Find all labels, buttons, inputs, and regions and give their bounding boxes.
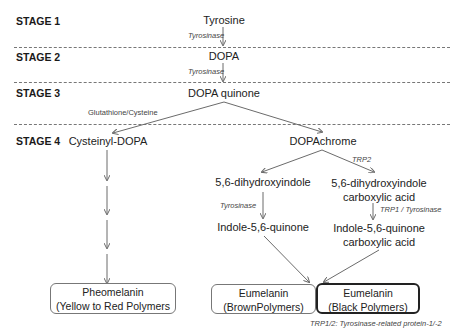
node-dopa-quinone: DOPA quinone: [188, 87, 260, 99]
product-subtitle: (BrownPolymers): [212, 300, 315, 314]
product-subtitle: (Black Polymers): [318, 300, 418, 314]
enzyme-tyrosinase-label: Tyrosinase: [188, 31, 224, 40]
product-title: Pheomelanin: [51, 285, 175, 299]
node-line: Indole-5,6-quinone: [333, 221, 425, 235]
product-title: Eumelanin: [212, 286, 315, 300]
enzyme-tyrosinase-label: Tyrosinase: [188, 67, 224, 76]
node-line: carboxylic acid: [333, 235, 425, 249]
node-line: 5,6-dihydroxyindole: [331, 176, 426, 190]
product-pheomelanin-box: Pheomelanin (Yellow to Red Polymers: [50, 283, 176, 314]
node-line: carboxylic acid: [331, 190, 426, 204]
node-5-6-dihydroxyindole-carboxylic-acid: 5,6-dihydroxyindole carboxylic acid: [331, 176, 426, 204]
node-indole-5-6-quinone: Indole-5,6-quinone: [217, 221, 309, 233]
node-tyrosine: Tyrosine: [203, 14, 245, 26]
product-subtitle: (Yellow to Red Polymers: [51, 299, 175, 313]
product-eumelanin-brown-box: Eumelanin (BrownPolymers): [211, 284, 316, 314]
node-indole-5-6-quinone-carboxylic-acid: Indole-5,6-quinone carboxylic acid: [333, 221, 425, 249]
enzyme-trp2-label: TRP2: [352, 155, 371, 164]
enzyme-trp1-tyrosinase-label: TRP1 / Tyrosinase: [380, 205, 442, 214]
product-title: Eumelanin: [318, 286, 418, 300]
node-cysteinyl-dopa: Cysteinyl-DOPA: [69, 135, 148, 147]
product-eumelanin-black-box: Eumelanin (Black Polymers): [316, 283, 420, 314]
enzyme-glutathione-cysteine-label: Glutathione/Cysteine: [88, 108, 158, 117]
node-dopa: DOPA: [209, 50, 239, 62]
enzyme-tyrosinase-label: Tyrosinase: [220, 201, 256, 210]
node-dopachrome: DOPAchrome: [289, 135, 356, 147]
node-5-6-dihydroxyindole: 5,6-dihydroxyindole: [215, 176, 310, 188]
footnote: TRP1/2: Tyrosinase-related protein-1/-2: [310, 319, 442, 328]
